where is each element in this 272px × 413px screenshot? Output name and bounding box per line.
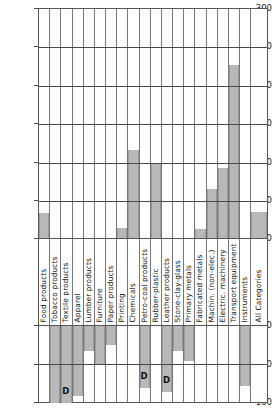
category-cell-machin-non-elec: Machin. (non-elec.) (207, 239, 218, 325)
bar-upper (117, 228, 127, 238)
category-label: Instruments (241, 276, 248, 322)
category-label: Primary metals (186, 265, 193, 322)
category-label: Textile products (63, 262, 70, 322)
gridline-100 (39, 163, 267, 164)
category-label: Lumber products (85, 258, 92, 322)
category-cell-furniture: Furniture (95, 239, 106, 325)
category-label: Rubber-plastic (152, 268, 159, 322)
bar-lower (106, 326, 116, 345)
category-columns: Food products Tobacco products Textile p… (39, 239, 267, 325)
gridline-250 (39, 47, 267, 48)
category-label: Printing (119, 293, 126, 322)
category-label: Machin. (non-elec.) (208, 249, 215, 322)
bar-upper (39, 213, 49, 238)
category-label: Fabricated metals (197, 254, 204, 322)
category-cell-petro-coal-products: Petro-coal products (140, 239, 151, 325)
category-label: Furniture (96, 288, 103, 322)
bar-chart: 300 250 200 150 100 50 0 0 -50 -100 (0, 0, 272, 413)
gridline-200 (39, 86, 267, 87)
gridline-minus-50 (39, 364, 267, 365)
gridline-150 (39, 124, 267, 125)
category-cell-apparel: Apparel (73, 239, 84, 325)
category-label-band: Food products Tobacco products Textile p… (38, 239, 268, 325)
category-label: Leather products (163, 258, 170, 322)
bar-upper (251, 212, 267, 238)
bar-lower (95, 326, 105, 365)
bar-lower (184, 326, 194, 361)
suppression-marker-leather: D (163, 376, 170, 385)
category-cell-fabricated-metals: Fabricated metals (195, 239, 206, 325)
category-label: Petro-coal products (141, 248, 148, 322)
category-cell-food-products: Food products (39, 239, 50, 325)
suppression-marker-textile: D (62, 387, 69, 396)
bar-upper (229, 65, 239, 238)
category-cell-stone-clay-glass: Stone-clay-glass (173, 239, 184, 325)
category-cell-rubber-plastic: Rubber-plastic (151, 239, 162, 325)
bar-upper (195, 229, 205, 238)
category-label: Chemicals (130, 283, 137, 322)
gridline-50 (39, 201, 267, 202)
category-cell-all-categories: All Categories (251, 239, 267, 325)
category-label: Tobacco products (52, 256, 59, 322)
bar-upper (218, 168, 228, 238)
category-cell-textile-products: Textile products (61, 239, 72, 325)
bar-lower (240, 326, 250, 386)
bar-lower (173, 326, 183, 351)
category-cell-printing: Printing (117, 239, 128, 325)
category-cell-electric-machinery: Electric. machinery (218, 239, 229, 325)
category-cell-instruments: Instruments (240, 239, 251, 325)
suppression-marker-petro-coal: D (141, 372, 148, 381)
category-cell-primary-metals: Primary metals (184, 239, 195, 325)
category-label: Food products (40, 268, 47, 322)
category-label: Electric. machinery (219, 249, 226, 322)
category-cell-chemicals: Chemicals (128, 239, 139, 325)
bar-lower (73, 326, 83, 396)
bar-lower (84, 326, 94, 351)
category-label: All Categories (255, 269, 262, 322)
upper-plot-area (38, 8, 268, 239)
category-cell-leather-products: Leather products (162, 239, 173, 325)
category-label: Stone-clay-glass (174, 260, 181, 322)
category-cell-lumber-products: Lumber products (84, 239, 95, 325)
bar-upper (207, 189, 217, 238)
category-cell-tobacco-products: Tobacco products (50, 239, 61, 325)
category-label: Paper products (107, 265, 114, 322)
category-cell-transport-equipment: Transport equipment (229, 239, 240, 325)
lower-plot-area: D D D (38, 325, 268, 403)
category-label: Apparel (74, 293, 81, 322)
category-label: Transport equipment (230, 243, 237, 322)
category-cell-paper-products: Paper products (106, 239, 117, 325)
